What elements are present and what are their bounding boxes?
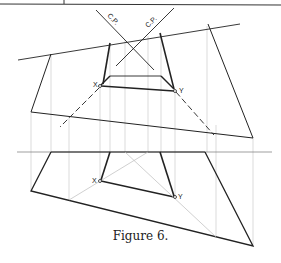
top-frame bbox=[0, 0, 281, 5]
point-y-label-top: Y bbox=[179, 87, 184, 94]
outer-plan bbox=[31, 24, 253, 138]
point-x-label-top: X bbox=[93, 81, 98, 88]
cp-label-left: C.P. bbox=[106, 12, 120, 26]
top-view bbox=[18, 8, 253, 138]
figure-caption: Figure 6. bbox=[0, 229, 281, 243]
point-x-label-front: X bbox=[92, 177, 97, 184]
projection-lines bbox=[31, 26, 253, 246]
perspective-diagram: C.P. C.P. X Y X Y bbox=[0, 0, 281, 263]
point-y-label-front: Y bbox=[178, 193, 183, 200]
